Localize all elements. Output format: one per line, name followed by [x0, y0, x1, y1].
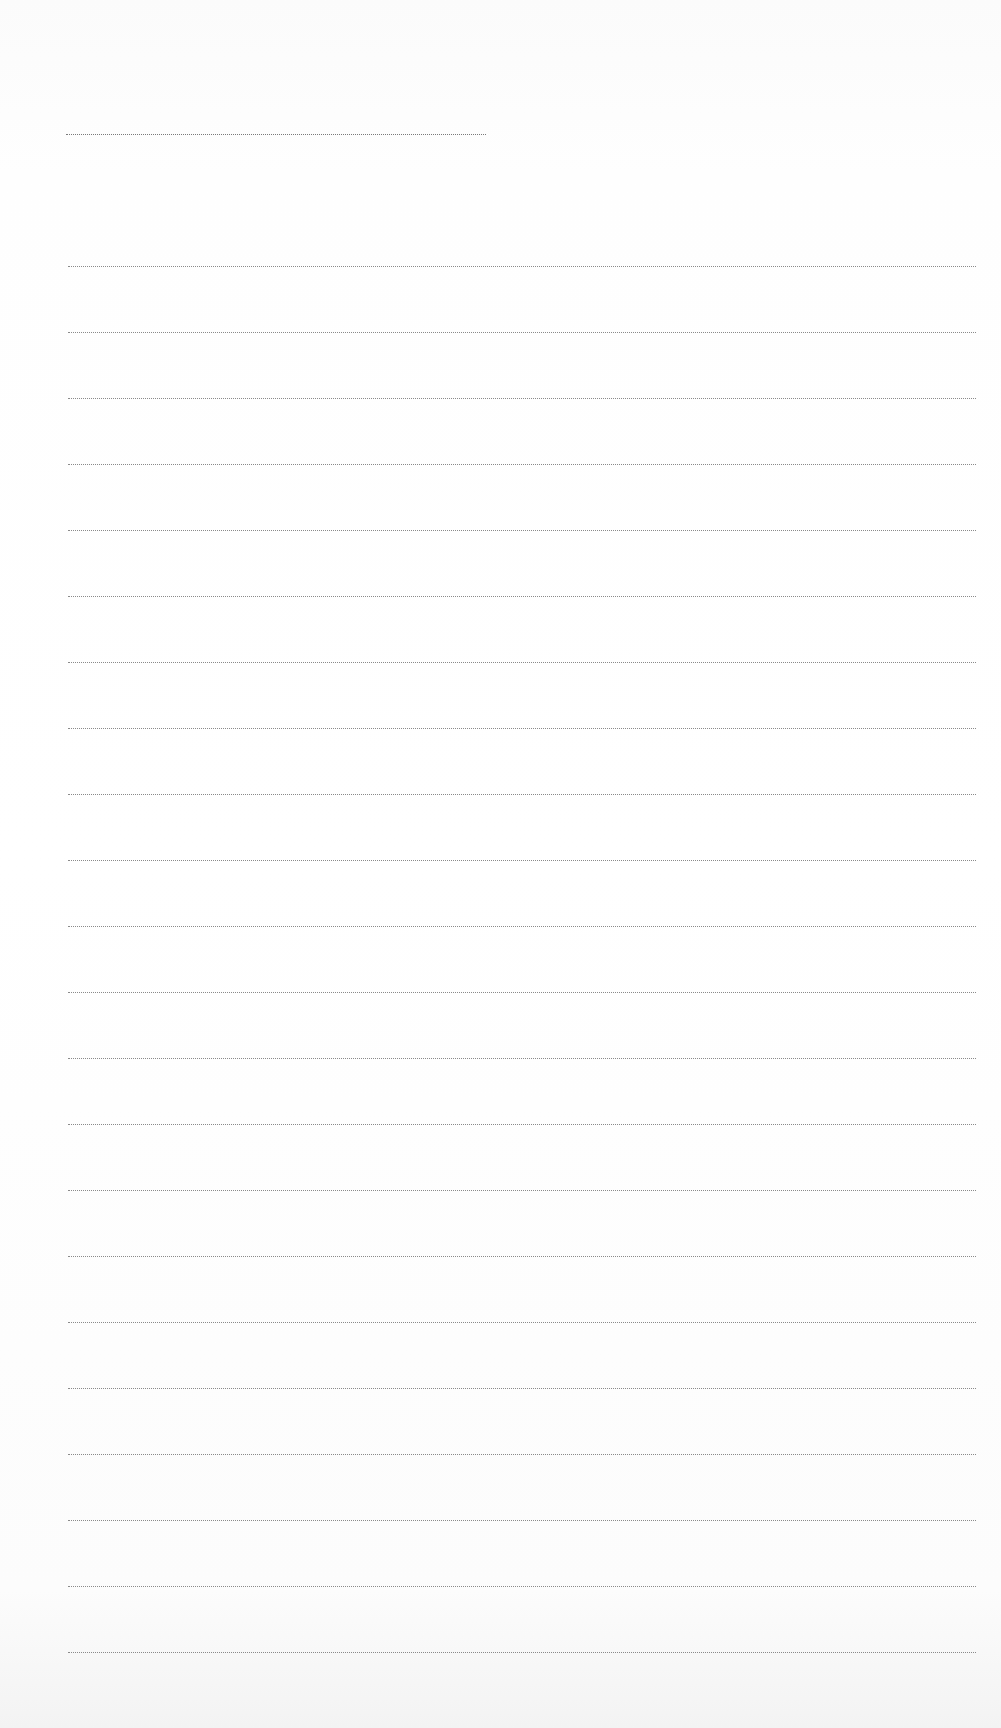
ruled-line: [68, 1388, 976, 1389]
ruled-line: [68, 332, 976, 333]
ruled-line: [68, 728, 976, 729]
ruled-line: [68, 1124, 976, 1125]
ruled-line: [68, 662, 976, 663]
ruled-line: [68, 1058, 976, 1059]
ruled-line: [68, 794, 976, 795]
ruled-line: [68, 398, 976, 399]
ruled-line: [68, 1322, 976, 1323]
ruled-line: [68, 1256, 976, 1257]
ruled-line: [68, 1652, 976, 1653]
lined-paper-page: [0, 0, 1001, 1728]
ruled-line: [68, 1454, 976, 1455]
ruled-line: [68, 1586, 976, 1587]
ruled-line: [68, 860, 976, 861]
ruled-line: [68, 596, 976, 597]
ruled-line: [68, 1190, 976, 1191]
ruled-line: [68, 530, 976, 531]
ruled-line: [68, 266, 976, 267]
header-title-line: [66, 134, 486, 135]
ruled-line: [68, 464, 976, 465]
ruled-line: [68, 926, 976, 927]
ruled-line: [68, 992, 976, 993]
ruled-line: [68, 1520, 976, 1521]
